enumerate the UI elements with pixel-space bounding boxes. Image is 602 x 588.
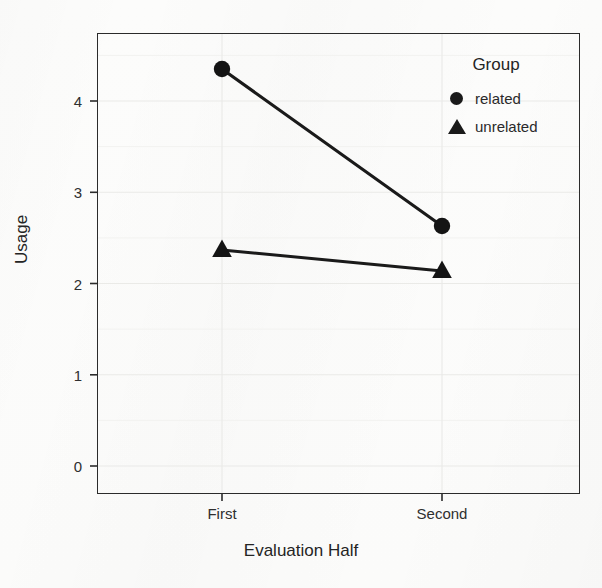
gridlines-major-vertical [222, 34, 442, 493]
triangle-marker-icon [446, 115, 468, 137]
legend-label-related: related [475, 90, 521, 107]
legend-item-related[interactable]: related [424, 85, 564, 111]
y-tick-label-2: 2 [58, 276, 82, 293]
series-line-unrelated [222, 250, 442, 271]
circle-marker-icon [446, 87, 468, 109]
x-axis-ticks [222, 494, 442, 501]
y-tick-label-4: 4 [58, 93, 82, 110]
gridlines-major-horizontal [98, 101, 579, 466]
legend-item-unrelated[interactable]: unrelated [424, 113, 564, 139]
data-point-unrelated-first [212, 240, 232, 258]
y-axis-title: Usage [12, 215, 32, 264]
y-axis-ticks [90, 101, 97, 466]
chart-figure: 4 3 2 1 0 First Second Usage Evaluation … [0, 0, 602, 588]
legend-label-unrelated: unrelated [475, 118, 538, 135]
y-tick-label-3: 3 [58, 184, 82, 201]
series-line-related [222, 69, 442, 226]
data-point-related-first [214, 61, 230, 77]
legend-title: Group [424, 55, 564, 75]
legend: Group related unrelated [424, 55, 564, 141]
data-point-related-second [434, 218, 450, 234]
y-tick-label-0: 0 [58, 458, 82, 475]
x-tick-label-first: First [207, 505, 236, 522]
x-tick-label-second: Second [417, 505, 468, 522]
x-axis-title: Evaluation Half [0, 541, 602, 561]
y-tick-label-1: 1 [58, 367, 82, 384]
